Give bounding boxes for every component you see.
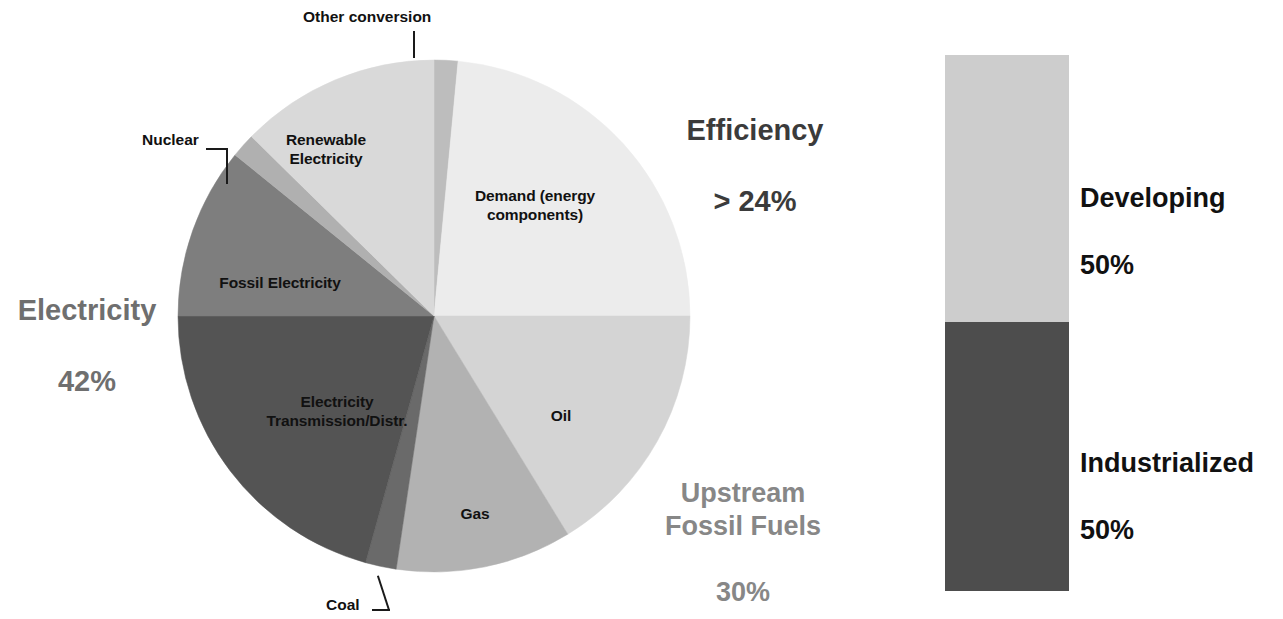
bar-label-industrialized-value: 50% <box>1080 514 1254 548</box>
summary-efficiency: Efficiency > 24% <box>640 78 870 255</box>
pie-callout-label-coal: Coal <box>326 596 360 615</box>
bar-label-developing: Developing 50% <box>1080 148 1226 317</box>
summary-efficiency-title: Efficiency <box>640 113 870 148</box>
bar-label-industrialized-title: Industrialized <box>1080 447 1254 481</box>
pie-chart-svg <box>176 58 692 574</box>
pie-callout-leader-other-conversion <box>413 31 415 58</box>
bar-label-developing-value: 50% <box>1080 249 1226 283</box>
summary-electricity-title: Electricity <box>0 293 180 328</box>
pie-callout-leader-nuclear-vertical <box>226 148 228 184</box>
summary-upstream-title: Upstream Fossil Fuels <box>625 477 861 543</box>
bar-segment-developing <box>945 55 1069 322</box>
bar-label-industrialized: Industrialized 50% <box>1080 413 1254 582</box>
summary-electricity: Electricity 42% <box>0 258 180 435</box>
pie-callout-leader-nuclear-horizontal <box>206 148 228 150</box>
pie-chart: Demand (energy components) Oil Gas Elect… <box>176 58 692 574</box>
summary-upstream-fossil-fuels: Upstream Fossil Fuels 30% <box>625 444 861 619</box>
figure-canvas: Demand (energy components) Oil Gas Elect… <box>0 0 1283 619</box>
summary-upstream-value: 30% <box>625 576 861 609</box>
pie-callout-leader-coal-vertical <box>377 575 390 610</box>
bar-label-developing-title: Developing <box>1080 182 1226 216</box>
pie-slice-group <box>178 60 690 572</box>
stacked-bar-chart <box>945 55 1069 591</box>
summary-electricity-value: 42% <box>0 364 180 399</box>
summary-efficiency-value: > 24% <box>640 184 870 219</box>
pie-callout-label-other-conversion: Other conversion <box>303 8 431 27</box>
bar-segment-industrialized <box>945 322 1069 591</box>
pie-callout-label-nuclear: Nuclear <box>142 131 199 150</box>
